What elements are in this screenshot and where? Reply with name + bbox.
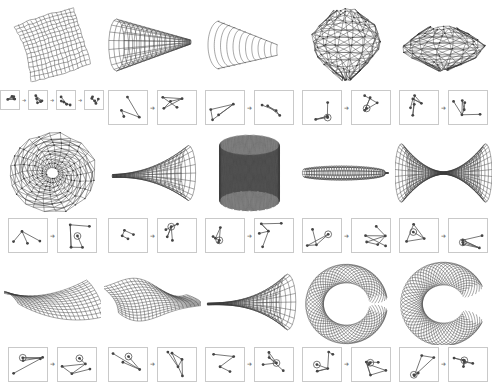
arrow-icon: ➜ [50,233,55,239]
figure-cell-saddle-quad-sheet: ➜ [0,257,104,385]
figure-cell-curved-quad-grid-sheet: ➜➜➜ [0,0,104,128]
mesh-shape-curved-quad-grid-sheet [0,2,104,88]
figure-cell-triangulated-brain-dome: ➜ [395,0,492,128]
graph-panel-row: ➜ [302,218,391,253]
mesh-shape-radial-woven-disc [0,130,104,216]
graph-panel-graph-n2[interactable] [351,347,391,382]
figure-cell-folded-wave-sheet: ➜ [104,257,201,385]
mesh-shape-horn-funnel-flare [104,130,201,216]
graph-panel-graph-a3[interactable] [56,90,76,110]
graph-panel-row: ➜ [205,347,294,382]
mesh-shape-coiled-torus-ring [298,259,395,345]
graph-panel-graph-k2[interactable] [57,347,97,382]
graph-panel-graph-j2[interactable] [448,218,488,253]
mesh-shape-tapered-cone-tube [104,2,201,88]
arrow-icon: ➜ [50,361,55,367]
mesh-shape-triangulated-blob-sphere [298,2,395,88]
mesh-shape-double-flare-bowtie [395,130,492,216]
graph-panel-graph-d2[interactable] [351,90,391,125]
arrow-icon: ➜ [344,361,349,367]
arrow-icon: ➜ [441,105,446,111]
arrow-icon: ➜ [150,105,155,111]
graph-panel-graph-n1[interactable] [302,347,342,382]
graph-panel-graph-h2[interactable] [254,218,294,253]
arrow-icon: ➜ [247,361,252,367]
graph-panel-graph-o1[interactable] [399,347,439,382]
mesh-shape-woven-cylinder-basket [201,130,298,216]
graph-panel-graph-e2[interactable] [448,90,488,125]
arrow-icon: ➜ [247,233,252,239]
figure-cell-triangulated-blob-sphere: ➜ [298,0,395,128]
graph-panel-row: ➜ [205,218,294,253]
arrow-icon: ➜ [150,361,155,367]
mesh-shape-triangulated-brain-dome [395,2,492,88]
graph-panel-graph-f1[interactable] [8,218,48,253]
graph-panel-row: ➜➜➜ [0,90,104,110]
mesh-shape-flat-woven-bar [298,130,395,216]
arrow-icon: ➜ [50,98,54,103]
figure-cell-coiled-torus-ring: ➜ [298,257,395,385]
graph-panel-row: ➜ [205,90,294,125]
graph-panel-row: ➜ [399,90,488,125]
arrow-icon: ➜ [344,105,349,111]
arrow-icon: ➜ [441,233,446,239]
graph-panel-graph-c2[interactable] [254,90,294,125]
figure-cell-open-coiled-collar: ➜ [395,257,492,385]
graph-panel-graph-f2[interactable] [57,218,97,253]
mesh-shape-saddle-quad-sheet [0,259,104,345]
graph-panel-graph-b2[interactable] [157,90,197,125]
graph-panel-graph-o2[interactable] [448,347,488,382]
graph-panel-row: ➜ [108,218,197,253]
graph-panel-graph-l2[interactable] [157,347,197,382]
graph-panel-graph-d1[interactable] [302,90,342,125]
figure-cell-double-flare-bowtie: ➜ [395,128,492,256]
graph-panel-graph-h1[interactable] [205,218,245,253]
graph-panel-graph-l1[interactable] [108,347,148,382]
graph-panel-row: ➜ [8,347,97,382]
graph-panel-graph-b1[interactable] [108,90,148,125]
graph-panel-graph-g1[interactable] [108,218,148,253]
graph-panel-graph-a1[interactable] [0,90,20,110]
graph-panel-graph-c1[interactable] [205,90,245,125]
graph-panel-graph-m1[interactable] [205,347,245,382]
arrow-icon: ➜ [22,98,26,103]
figure-cell-pointed-trumpet-mesh: ➜ [201,257,298,385]
graph-panel-graph-j1[interactable] [399,218,439,253]
graph-panel-graph-i1[interactable] [302,218,342,253]
figure-cell-flat-woven-bar: ➜ [298,128,395,256]
figure-cell-woven-cylinder-basket: ➜ [201,128,298,256]
figure-cell-horn-funnel-flare: ➜ [104,128,201,256]
figure-cell-radial-woven-disc: ➜ [0,128,104,256]
graph-panel-row: ➜ [108,90,197,125]
graph-panel-graph-i2[interactable] [351,218,391,253]
mesh-shape-layered-shell-mussel [201,2,298,88]
graph-panel-graph-m2[interactable] [254,347,294,382]
figure-cell-tapered-cone-tube: ➜ [104,0,201,128]
mesh-shape-open-coiled-collar [395,259,492,345]
graph-panel-row: ➜ [302,347,391,382]
graph-panel-row: ➜ [399,347,488,382]
graph-panel-row: ➜ [108,347,197,382]
arrow-icon: ➜ [247,105,252,111]
graph-panel-row: ➜ [302,90,391,125]
arrow-icon: ➜ [344,233,349,239]
mesh-shape-folded-wave-sheet [104,259,201,345]
graph-panel-row: ➜ [8,218,97,253]
arrow-icon: ➜ [150,233,155,239]
figure-cell-layered-shell-mussel: ➜ [201,0,298,128]
graph-panel-graph-g2[interactable] [157,218,197,253]
graph-panel-row: ➜ [399,218,488,253]
arrow-icon: ➜ [78,98,82,103]
mesh-shape-pointed-trumpet-mesh [201,259,298,345]
graph-panel-graph-a4[interactable] [84,90,104,110]
graph-panel-graph-a2[interactable] [28,90,48,110]
graph-panel-graph-e1[interactable] [399,90,439,125]
arrow-icon: ➜ [441,361,446,367]
graph-panel-graph-k1[interactable] [8,347,48,382]
